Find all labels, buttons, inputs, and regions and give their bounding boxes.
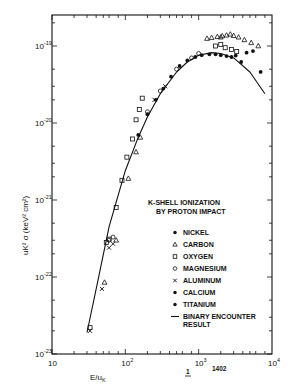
filled-circle-marker-icon xyxy=(239,60,243,64)
filled-circle-marker-icon xyxy=(185,59,189,63)
filled-circle-marker-icon xyxy=(161,87,165,91)
legend-label: CARBON xyxy=(183,241,214,248)
figure-number: 1402 xyxy=(212,365,227,372)
legend-label: CALCIUM xyxy=(183,289,215,296)
filled-circle-marker-icon xyxy=(245,51,249,55)
filled-circle-marker-icon xyxy=(169,75,173,79)
filled-circle-marker-icon xyxy=(207,52,211,56)
filled-circle-marker-icon xyxy=(259,70,263,74)
filled-circle-marker-icon xyxy=(225,54,229,58)
filled-circle-marker-icon xyxy=(230,55,234,59)
filled-circle-marker-icon xyxy=(214,52,218,56)
y-axis-label: uK² σ (keV² cm²) xyxy=(21,196,30,255)
filled-circle-legend-icon xyxy=(173,291,176,294)
filled-circle-marker-icon xyxy=(200,53,204,57)
filled-circle-marker-icon xyxy=(219,53,223,57)
legend-label: ALUMINUM xyxy=(183,277,221,284)
legend-label: OXYGEN xyxy=(183,253,213,260)
legend-label: BINARY ENCOUNTER xyxy=(183,313,256,320)
filled-circle-marker-icon xyxy=(146,112,150,116)
y-axis-label-text: uK² σ (keV² cm²) xyxy=(21,196,30,255)
chart-title-line-1: K-SHELL IONIZATION xyxy=(148,199,220,206)
legend-label: NICKEL xyxy=(183,229,210,236)
filled-circle-marker-icon xyxy=(251,49,255,53)
legend-label: TITANIUM xyxy=(183,301,216,308)
page-mark: 1 xyxy=(186,368,190,375)
filled-circle-marker-icon xyxy=(193,55,197,59)
filled-circle-marker-icon xyxy=(154,98,158,102)
filled-circle-legend-icon xyxy=(173,231,176,234)
chart-title-line-2: BY PROTON IMPACT xyxy=(156,208,226,215)
x-tick-label: 10 xyxy=(48,359,57,368)
filled-circle-legend-icon xyxy=(173,303,176,306)
chart-figure: 1010210310410-1910-2010-2110-2210-23 uK²… xyxy=(0,0,292,391)
legend-label: RESULT xyxy=(183,321,211,328)
legend-label: MAGNESIUM xyxy=(183,265,227,272)
filled-circle-marker-icon xyxy=(136,133,140,137)
filled-circle-marker-icon xyxy=(234,54,238,58)
filled-circle-marker-icon xyxy=(178,64,182,68)
